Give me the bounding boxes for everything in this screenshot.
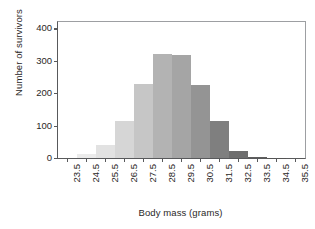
y-tick-mark xyxy=(54,126,58,127)
plot-area xyxy=(57,21,306,159)
y-tick-label: 100 xyxy=(22,119,52,130)
x-tick-mark xyxy=(86,158,87,162)
x-tick-label: 31.5 xyxy=(223,164,234,183)
y-tick-mark xyxy=(54,28,58,29)
x-tick-label: 33.5 xyxy=(261,164,272,183)
histogram-bar xyxy=(172,55,191,158)
x-tick-label: 29.5 xyxy=(185,164,196,183)
x-tick-mark xyxy=(257,158,258,162)
x-axis-tick-marks xyxy=(57,158,304,163)
x-tick-label: 28.5 xyxy=(166,164,177,183)
y-tick-label: 300 xyxy=(22,54,52,65)
x-tick-mark xyxy=(200,158,201,162)
y-axis-tick-labels: 0100200300400 xyxy=(22,0,52,229)
histogram-bar xyxy=(134,84,153,158)
x-tick-label: 24.5 xyxy=(90,164,101,183)
x-axis-tick-labels: 23.524.525.526.527.528.529.530.531.532.5… xyxy=(57,164,304,204)
histogram-bar xyxy=(210,121,229,158)
histogram-bar xyxy=(153,54,172,158)
x-tick-label: 32.5 xyxy=(242,164,253,183)
histogram-bars xyxy=(58,22,305,158)
x-tick-label: 25.5 xyxy=(109,164,120,183)
x-tick-mark xyxy=(276,158,277,162)
x-tick-label: 23.5 xyxy=(71,164,82,183)
x-tick-label: 30.5 xyxy=(204,164,215,183)
x-tick-mark xyxy=(162,158,163,162)
y-tick-label: 400 xyxy=(22,22,52,33)
x-tick-mark xyxy=(67,158,68,162)
histogram-bar xyxy=(229,151,248,158)
histogram-bar xyxy=(191,85,210,158)
x-tick-mark xyxy=(238,158,239,162)
x-tick-label: 27.5 xyxy=(147,164,158,183)
y-tick-mark xyxy=(54,93,58,94)
x-tick-label: 34.5 xyxy=(280,164,291,183)
y-tick-label: 200 xyxy=(22,87,52,98)
x-tick-label: 35.5 xyxy=(299,164,310,183)
y-tick-mark xyxy=(54,61,58,62)
x-tick-mark xyxy=(181,158,182,162)
x-tick-label: 26.5 xyxy=(128,164,139,183)
x-axis-title: Body mass (grams) xyxy=(57,207,304,218)
x-tick-mark xyxy=(219,158,220,162)
x-tick-mark xyxy=(143,158,144,162)
histogram-bar xyxy=(115,121,134,158)
histogram-figure: Number of survivors 0100200300400 23.524… xyxy=(0,0,315,229)
y-tick-label: 0 xyxy=(22,152,52,163)
x-tick-mark xyxy=(124,158,125,162)
x-tick-mark xyxy=(295,158,296,162)
x-tick-mark xyxy=(105,158,106,162)
histogram-bar xyxy=(96,145,115,158)
